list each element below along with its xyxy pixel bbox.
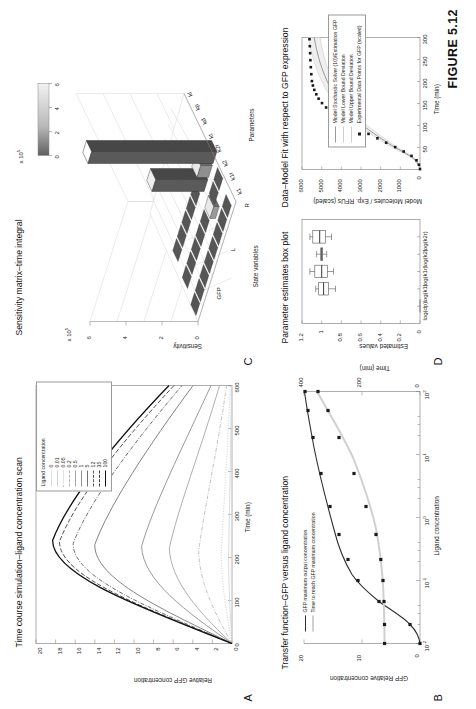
cbar-exp-power: 5 bbox=[16, 149, 21, 151]
panel-a-xlabel: Time (min) bbox=[244, 502, 251, 532]
panel-d-xtick: log(dp) bbox=[422, 301, 428, 320]
legend-label: Model Stochastic Solver (10)/Estimation … bbox=[332, 19, 338, 123]
panel-b-xtick: 10-1 bbox=[422, 577, 430, 588]
legend-item: Model Stochastic Solver (10)/Estimation … bbox=[332, 19, 338, 142]
panel-b-plot bbox=[294, 367, 454, 687]
panel-c-state-tick: GFP bbox=[216, 287, 222, 299]
panel-e-xtick: 300 bbox=[422, 34, 428, 44]
panel-d-ytick: 1.2 bbox=[298, 333, 304, 341]
panel-a-ytick: 20 bbox=[37, 647, 43, 654]
panel-e-xtick: 50 bbox=[422, 145, 428, 152]
legend-swatch-marker bbox=[356, 126, 362, 142]
legend-swatch-line bbox=[312, 615, 314, 631]
panel-d-ytick: 0.2 bbox=[396, 333, 402, 341]
panel-e-ytick: 5000 bbox=[318, 179, 324, 192]
legend-item: Time to reach GFP maximum concentration bbox=[310, 512, 316, 631]
legend-swatch-line bbox=[99, 470, 100, 486]
panel-a-ytick: 14 bbox=[96, 647, 102, 654]
panel-a-ytick: 8 bbox=[155, 647, 161, 650]
legend-label: Time to reach GFP maximum concentration bbox=[310, 512, 316, 612]
panel-a-xtick: 100 bbox=[234, 597, 240, 607]
panel-c-ylabel: State variables bbox=[252, 245, 259, 287]
panel-d-xtick: log(k2r) bbox=[422, 231, 428, 251]
legend-swatch-line bbox=[105, 470, 106, 486]
legend-swatch-line bbox=[335, 126, 336, 142]
cbar-exp-base: x 10 bbox=[18, 152, 24, 163]
panel-a-title: Time course simulation–ligand concentrat… bbox=[14, 457, 24, 647]
panel-e-ytick: 1000 bbox=[396, 179, 402, 192]
panel-a-ytick: 16 bbox=[76, 647, 82, 654]
panel-c-state-tick: R bbox=[244, 203, 250, 207]
legend-item: Experimental Data Points for GFP (scaled… bbox=[356, 19, 362, 142]
panel-a-ytick: 10 bbox=[135, 647, 141, 654]
panel-d-ytick: 1 bbox=[318, 330, 324, 333]
legend-swatch-line bbox=[343, 126, 344, 142]
legend-swatch-line bbox=[93, 470, 94, 486]
panel-a-xtick: 400 bbox=[234, 468, 240, 478]
panel-d-ytick: 0.6 bbox=[357, 333, 363, 341]
panel-b-ytick-right: 0 bbox=[414, 384, 420, 387]
panel-b-ytick: 0 bbox=[414, 654, 420, 657]
panel-b-xtick: 101 bbox=[422, 453, 430, 462]
panel-d-title: Parameter estimates box plot bbox=[280, 231, 290, 343]
panel-a: A Time course simulation–ligand concentr… bbox=[16, 367, 266, 687]
panel-d-letter: D bbox=[432, 357, 444, 365]
legend-item: GFP maximum output concentration bbox=[302, 512, 308, 631]
panel-a-xtick: 500 bbox=[234, 425, 240, 435]
legend-item: Model Lower Bound Deviation bbox=[340, 19, 346, 142]
panel-d-ytick: 0 bbox=[416, 330, 422, 333]
legend-swatch-line bbox=[87, 470, 88, 486]
legend-label: 100 bbox=[102, 458, 108, 467]
panel-b-ytick: 20 bbox=[298, 654, 304, 661]
panel-a-xtick: 0 bbox=[234, 643, 240, 646]
panel-e-ytick: 4000 bbox=[337, 179, 343, 192]
legend-label: GFP maximum output concentration bbox=[302, 529, 308, 612]
panel-e-ytick: 2000 bbox=[377, 179, 383, 192]
legend-swatch-line bbox=[63, 470, 64, 486]
panel-a-ytick: 4 bbox=[194, 647, 200, 650]
figure-rotated-container: A Time course simulation–ligand concentr… bbox=[0, 0, 476, 709]
panel-a-ytick: 12 bbox=[115, 647, 121, 654]
panel-a-ytick: 6 bbox=[174, 647, 180, 650]
legend-swatch-line bbox=[51, 470, 52, 486]
panel-e-xtick: 100 bbox=[422, 122, 428, 132]
panel-c-letter: C bbox=[242, 357, 254, 365]
panel-b-xlabel: Ligand concentration bbox=[433, 496, 440, 555]
panel-b-legend: GFP maximum output concentration Time to… bbox=[302, 512, 316, 631]
panel-e-ylabel: Model Molecules / Exp. RFUs (scaled) bbox=[313, 197, 422, 204]
panel-c-state-axis: R L GFP bbox=[30, 71, 270, 351]
panel-b-title: Transfer function–GFP versus ligand conc… bbox=[280, 476, 290, 669]
panel-a-ytick: 0 bbox=[233, 647, 239, 650]
panel-b-ytick-right: 400 bbox=[298, 377, 304, 387]
panel-a-legend-title: Ligand concentration bbox=[40, 386, 46, 486]
panel-d: D Parameter estimates box plot bbox=[282, 211, 462, 351]
panel-a-ylabel: Relative GFP concentration bbox=[134, 676, 212, 683]
panel-b-xtick: 100 bbox=[422, 516, 430, 525]
legend-swatch-line bbox=[75, 470, 76, 486]
panel-e-xlabel: Time (min) bbox=[433, 84, 440, 114]
panel-e-xtick: 150 bbox=[422, 100, 428, 110]
legend-item: Model Upper Bound Deviation bbox=[348, 19, 354, 142]
legend-swatch-line bbox=[81, 470, 82, 486]
panel-b-ylabel: GFP Relative concentration bbox=[330, 674, 408, 681]
panel-e-ytick: 3000 bbox=[357, 179, 363, 192]
legend-swatch-line bbox=[305, 615, 306, 631]
panel-c-state-tick: L bbox=[230, 248, 236, 251]
panel-b-ytick-right: 200 bbox=[356, 377, 362, 387]
panel-b-xtick: 102 bbox=[422, 390, 430, 399]
panel-a-xtick: 300 bbox=[234, 511, 240, 521]
panel-e-ytick: 6000 bbox=[298, 179, 304, 192]
panel-a-xtick: 200 bbox=[234, 554, 240, 564]
panel-d-ylabel: Estimated values bbox=[359, 342, 408, 349]
panel-a-legend: Ligand concentration 0 0.01 0.05 0.2 0.5… bbox=[36, 381, 112, 491]
figure-caption: FIGURE 5.12 bbox=[446, 9, 460, 88]
panel-b-letter: B bbox=[432, 694, 444, 701]
panel-e-title: Data–Model Fit with respect to GFP expre… bbox=[280, 27, 290, 207]
legend-label: Model Lower Bound Deviation bbox=[340, 54, 346, 123]
panel-e: Data–Model Fit with respect to GFP expre… bbox=[282, 29, 462, 209]
legend-swatch-line bbox=[57, 470, 58, 486]
panel-e-ytick: 0 bbox=[416, 176, 422, 179]
panel-c: C Sensitivity matrix–time integral bbox=[16, 71, 266, 351]
panel-a-ytick: 2 bbox=[213, 647, 219, 650]
panel-d-ytick: 0.8 bbox=[337, 333, 343, 341]
